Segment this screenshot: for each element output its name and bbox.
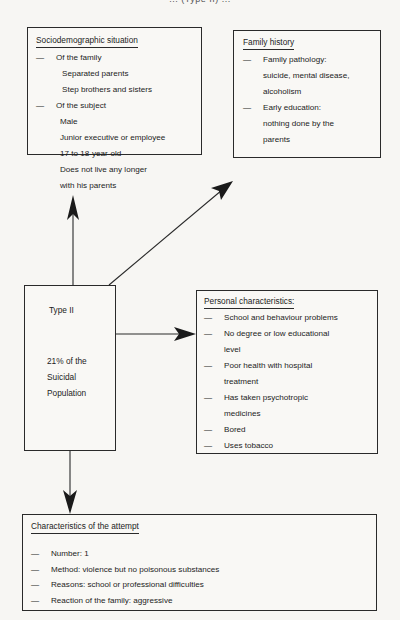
list-item-subject-heading: — Of the subject	[36, 98, 201, 114]
list-item-continuation: nothing done by the	[243, 116, 380, 132]
list-item-continuation: alcoholism	[243, 84, 380, 100]
list-item: Separated parents	[36, 66, 201, 82]
list-item: — No degree or low educational	[204, 326, 377, 342]
list-item: 17 to 18-year-old	[36, 146, 201, 162]
list-item-continuation: suicide, mental disease,	[243, 68, 380, 84]
dash-bullet-icon: —	[204, 358, 224, 374]
arrow-right-head-icon	[174, 327, 196, 341]
list-item: Junior executive or employee	[36, 130, 201, 146]
dash-bullet-icon: —	[31, 593, 51, 609]
type-ii-box: Type II 21% of the Suicidal Population	[24, 285, 116, 451]
list-item-continuation: level	[204, 342, 377, 358]
list-item: — Reaction of the family: aggressive	[31, 593, 376, 609]
dash-bullet-icon: —	[36, 98, 56, 114]
dash-bullet-icon: —	[204, 326, 224, 342]
list-item: — Family pathology:	[243, 52, 380, 68]
arrow-diagonal-head-icon	[211, 181, 233, 200]
personal-characteristics-title: Personal characteristics:	[204, 295, 294, 309]
dash-bullet-icon: —	[204, 390, 224, 406]
arrow-down-head-icon	[63, 490, 77, 514]
page-header-fragment: ... (Type II) ...	[120, 0, 280, 4]
family-history-box: Family history — Family pathology: suici…	[233, 30, 381, 158]
list-item: Does not live any longer	[36, 162, 201, 178]
list-item: — Method: violence but no poisonous subs…	[31, 562, 376, 578]
dash-bullet-icon: —	[204, 310, 224, 326]
list-item: with his parents	[36, 178, 201, 194]
dash-bullet-icon: —	[204, 438, 224, 454]
sociodemographic-title: Sociodemographic situation	[36, 34, 138, 48]
dash-bullet-icon: —	[31, 546, 51, 562]
list-item: — Has taken psychotropic	[204, 390, 377, 406]
list-item: Step brothers and sisters	[36, 82, 201, 98]
list-item: — Early education:	[243, 100, 380, 116]
list-item: — Reasons: school or professional diffic…	[31, 577, 376, 593]
dash-bullet-icon: —	[243, 100, 263, 116]
family-history-title: Family history	[243, 36, 294, 50]
list-item: Male	[36, 114, 201, 130]
list-item: — Poor health with hospital	[204, 358, 377, 374]
personal-characteristics-box: Personal characteristics: — School and b…	[196, 290, 378, 454]
list-item: — Bored	[204, 422, 377, 438]
dash-bullet-icon: —	[31, 562, 51, 578]
list-item: — Number: 1	[31, 546, 376, 562]
dash-bullet-icon: —	[243, 52, 263, 68]
arrow-up-head-icon	[67, 195, 79, 220]
sociodemographic-box: Sociodemographic situation — Of the fami…	[27, 27, 202, 155]
attempt-characteristics-title: Characteristics of the attempt	[31, 520, 139, 534]
population-percentage: 21% of the Suicidal Population	[47, 353, 87, 401]
list-item: — Uses tobacco	[204, 438, 377, 454]
list-item: — School and behaviour problems	[204, 310, 377, 326]
dash-bullet-icon: —	[31, 577, 51, 593]
list-item-continuation: parents	[243, 132, 380, 148]
attempt-characteristics-box: Characteristics of the attempt — Number:…	[22, 514, 377, 611]
list-item-family-heading: — Of the family	[36, 50, 201, 66]
list-item-continuation: treatment	[204, 374, 377, 390]
arrow-diagonal-line	[109, 190, 222, 285]
list-item-continuation: medicines	[204, 406, 377, 422]
dash-bullet-icon: —	[36, 50, 56, 66]
type-label: Type II	[49, 302, 74, 318]
dash-bullet-icon: —	[204, 422, 224, 438]
